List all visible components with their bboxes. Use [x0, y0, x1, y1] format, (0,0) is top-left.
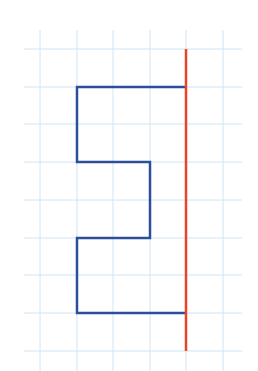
grid-diagram	[0, 0, 258, 371]
grid-lines	[24, 30, 242, 371]
